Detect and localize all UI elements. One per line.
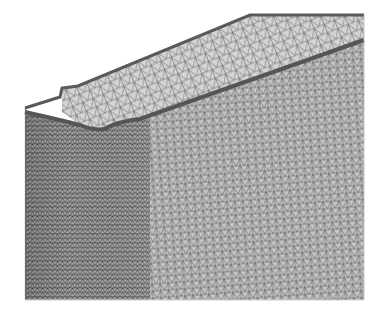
- mesh-figure: Finite element triangular surface mesh o…: [0, 0, 383, 316]
- fem-mesh-render: [0, 0, 383, 316]
- front-face-shading: [25, 112, 150, 300]
